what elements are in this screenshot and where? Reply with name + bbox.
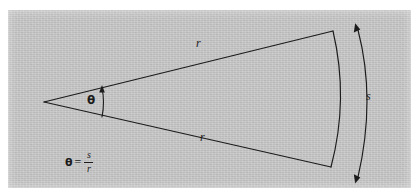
sector-arc (331, 31, 341, 167)
diagram-plate: r r s θ θ = s r (8, 10, 411, 188)
upper-radius-line (44, 31, 333, 102)
arc-length-arrowhead-bottom-icon (354, 174, 361, 183)
equation-fraction: s r (84, 150, 93, 174)
angle-equation: θ = s r (65, 150, 93, 174)
figure-root: r r s θ θ = s r (0, 0, 419, 196)
equation-numerator: s (85, 150, 93, 161)
angle-label: θ (87, 94, 95, 106)
lower-radius-label: r (200, 131, 205, 143)
equation-denominator: r (85, 164, 93, 175)
arc-length-label: s (366, 90, 371, 102)
arc-length-arrowhead-top-icon (354, 23, 361, 32)
equation-lhs: θ (65, 156, 73, 169)
upper-radius-label: r (196, 37, 201, 49)
equation-equals-sign: = (75, 155, 82, 170)
arc-length-dimension-arc (358, 30, 367, 177)
